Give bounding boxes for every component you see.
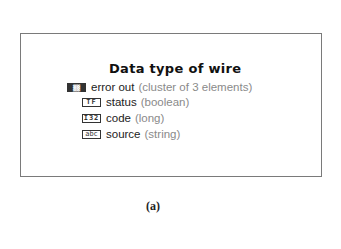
item-name: code [106,112,131,124]
i32-icon: I32 [82,114,101,123]
item-type: (boolean) [141,96,190,108]
item-name: error out [91,81,134,93]
item-type: (cluster of 3 elements) [138,81,252,93]
tree-item-source: abc source (string) [82,128,180,140]
tree-item-status: TF status (boolean) [82,96,189,108]
tree-item-code: I32 code (long) [82,112,164,124]
string-icon: abc [82,130,101,139]
boolean-icon: TF [82,98,101,107]
item-type: (string) [145,128,181,140]
figure-caption: (a) [146,199,160,214]
panel-title: Data type of wire [109,61,241,76]
tree-item-error-out: ▓▓ error out (cluster of 3 elements) [67,81,252,93]
cluster-icon: ▓▓ [67,83,86,92]
item-name: source [106,128,141,140]
item-type: (long) [135,112,164,124]
item-name: status [106,96,137,108]
